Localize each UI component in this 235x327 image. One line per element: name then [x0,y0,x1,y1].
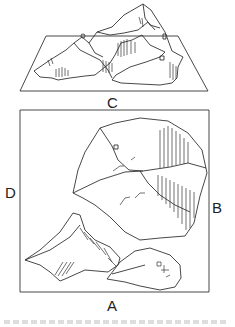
diagram-canvas [0,0,235,327]
label-d: D [5,185,16,200]
relief-model-3d [34,4,183,85]
label-b: B [212,200,222,215]
plan-piece-triangle [25,213,120,281]
cropped-caption-line [4,320,229,324]
plan-piece-teardrop [107,248,181,290]
plan-piece-large [73,118,207,240]
label-c: C [107,95,118,110]
label-a: A [107,298,117,313]
